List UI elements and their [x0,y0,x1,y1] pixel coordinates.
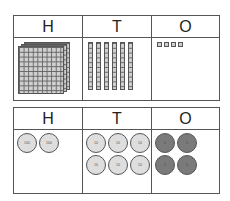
ones-cell [152,38,219,100]
header-tens: T [83,108,152,129]
tens-cell: 101010101010 [83,130,152,193]
place-value-chart-blocks: H T O [13,15,220,101]
header-tens: T [83,16,152,37]
one-cube [164,42,169,47]
ten-rod [112,42,117,90]
hundreds-cell: 100100 [14,130,83,193]
ten-rod [88,42,93,90]
header-row: H T O [14,16,219,38]
one-cube [178,42,183,47]
one-disc: 1 [155,155,175,175]
one-disc: 1 [177,133,197,153]
header-row: H T O [14,108,219,130]
header-hundreds: H [14,108,83,129]
header-ones: O [152,16,219,37]
ten-rod [96,42,101,90]
ten-disc: 10 [86,155,106,175]
ten-rod [128,42,133,90]
ten-rod [120,42,125,90]
ten-disc: 10 [86,133,106,153]
header-hundreds: H [14,16,83,37]
header-ones: O [152,108,219,129]
one-disc: 1 [177,155,197,175]
ones-cubes [157,42,183,47]
hundred-disc: 100 [17,133,37,153]
hundreds-cell [14,38,83,100]
ten-rod [104,42,109,90]
hundreds-discs: 100100 [17,133,77,153]
ten-disc: 10 [130,155,150,175]
blocks-row [14,38,219,100]
tens-cell [83,38,152,100]
ones-discs: 1111 [155,133,199,175]
ten-disc: 10 [130,133,150,153]
one-disc: 1 [155,133,175,153]
one-cube [157,42,162,47]
ten-disc: 10 [108,155,128,175]
discs-row: 100100 101010101010 1111 [14,130,219,193]
hundred-flat-layer [18,46,64,94]
ten-disc: 10 [108,133,128,153]
place-value-chart-discs: H T O 100100 101010101010 1111 [13,107,220,194]
one-cube [171,42,176,47]
tens-rods [88,42,133,90]
hundred-flat [18,42,70,98]
hundred-disc: 100 [39,133,59,153]
tens-discs: 101010101010 [86,133,152,175]
ones-cell: 1111 [152,130,219,193]
